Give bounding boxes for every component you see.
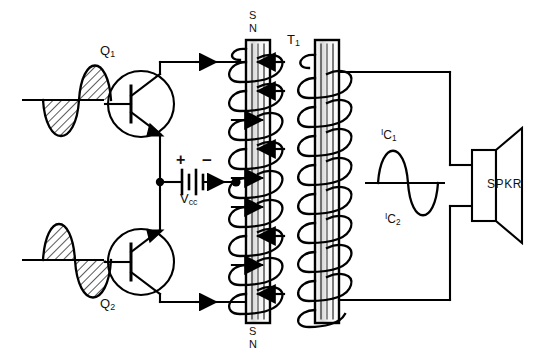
waveform-output-secondary (366, 151, 444, 216)
label-ic1: IC1 (381, 128, 397, 143)
label-speaker: SPKR (487, 178, 522, 190)
wire-secondary-to-speaker (339, 72, 472, 300)
label-vcc: Vcc (180, 192, 198, 207)
waveform-input-q2 (23, 224, 111, 298)
label-pole-n-top: N (249, 23, 257, 34)
label-pole-s-top: S (249, 10, 256, 21)
schematic-canvas: Q1 Q2 Vcc + − T1 S N S N IC1 IC2 SPKR (0, 0, 542, 363)
label-t1: T1 (287, 33, 300, 48)
label-battery-plus: + (176, 152, 185, 168)
transistor-q2 (105, 182, 174, 302)
label-q1: Q1 (100, 44, 115, 59)
waveform-input-q1 (23, 66, 111, 137)
label-q2: Q2 (100, 297, 115, 312)
transistor-q1 (105, 62, 174, 182)
circuit-schematic-svg (0, 0, 542, 363)
label-battery-minus: − (202, 152, 212, 169)
label-pole-n-bottom: N (249, 339, 257, 350)
battery-vcc (156, 170, 241, 194)
label-pole-s-bottom: S (249, 326, 256, 337)
label-ic2: IC2 (385, 212, 401, 227)
